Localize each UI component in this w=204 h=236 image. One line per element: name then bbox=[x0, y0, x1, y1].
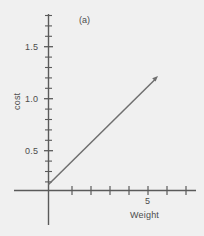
y-tick-label-1-0: 1.0 bbox=[25, 94, 38, 104]
x-tick-label-5: 5 bbox=[145, 196, 150, 206]
y-tick-label-0-5: 0.5 bbox=[25, 146, 38, 156]
x-axis-title: Weight bbox=[130, 210, 159, 220]
panel-label: (a) bbox=[79, 15, 90, 25]
y-axis-title: cost bbox=[12, 93, 22, 110]
y-tick-label-1-5: 1.5 bbox=[25, 42, 38, 52]
data-line-series bbox=[49, 76, 159, 185]
data-line bbox=[49, 79, 156, 185]
plot-canvas bbox=[0, 0, 204, 236]
chart-figure: 1.5 1.0 0.5 5 cost Weight (a) bbox=[0, 0, 204, 236]
